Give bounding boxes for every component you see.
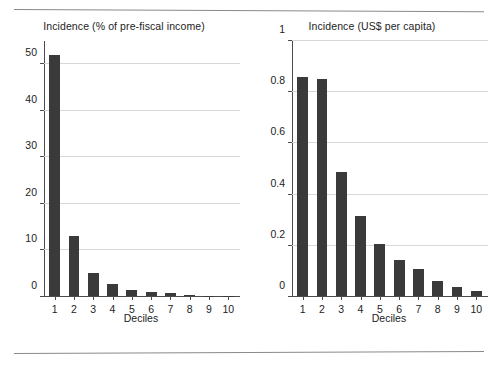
y-tick-label: 10 xyxy=(25,232,37,244)
page-rule-top xyxy=(14,9,484,12)
x-tick-mark xyxy=(380,296,381,300)
chart-title-usd: Incidence (US$ per capita) xyxy=(248,20,496,32)
chart-panels: Incidence (% of pre-fiscal income) 01020… xyxy=(0,14,496,344)
x-tick-mark xyxy=(341,296,342,300)
bar xyxy=(374,244,385,296)
x-tick-mark xyxy=(438,296,439,300)
bar-slot: 5 xyxy=(122,41,141,296)
bar-series-percent: 12345678910 xyxy=(45,41,238,296)
x-tick-mark xyxy=(457,296,458,300)
y-tick-mark xyxy=(40,249,44,250)
bar xyxy=(107,284,118,296)
bar xyxy=(297,77,308,296)
page-rule-bottom xyxy=(14,351,484,354)
y-tick-mark xyxy=(40,296,44,297)
x-axis-label-usd: Deciles xyxy=(292,312,486,324)
bar xyxy=(336,172,347,296)
y-tick-label: 0.2 xyxy=(270,228,285,240)
x-tick-mark xyxy=(55,296,56,300)
y-tick-mark xyxy=(40,203,44,204)
bar-slot: 10 xyxy=(219,41,238,296)
y-tick-label: 0 xyxy=(279,279,285,291)
bar xyxy=(452,287,463,296)
bar xyxy=(355,216,366,296)
bar xyxy=(432,281,443,296)
y-tick-mark xyxy=(288,194,292,195)
bar-slot: 6 xyxy=(141,41,160,296)
x-tick-mark xyxy=(476,296,477,300)
x-tick-mark xyxy=(132,296,133,300)
x-tick-mark xyxy=(170,296,171,300)
y-tick-label: 50 xyxy=(25,46,37,58)
y-tick-mark xyxy=(40,156,44,157)
plot-area-usd: 00.20.40.60.81 12345678910 xyxy=(292,41,486,297)
chart-panel-usd: Incidence (US$ per capita) 00.20.40.60.8… xyxy=(248,14,496,344)
y-tick-mark xyxy=(288,245,292,246)
bar-slot: 10 xyxy=(467,41,486,296)
bar-slot: 8 xyxy=(428,41,447,296)
bar-slot: 4 xyxy=(351,41,370,296)
x-tick-mark xyxy=(361,296,362,300)
bar xyxy=(88,273,99,296)
x-axis-label-percent: Deciles xyxy=(44,312,238,324)
x-tick-mark xyxy=(228,296,229,300)
x-tick-mark xyxy=(209,296,210,300)
y-tick-label: 0.8 xyxy=(270,74,285,86)
bar xyxy=(413,269,424,296)
bar-slot: 6 xyxy=(389,41,408,296)
bar-slot: 9 xyxy=(199,41,218,296)
y-tick-mark xyxy=(40,110,44,111)
bar-slot: 8 xyxy=(180,41,199,296)
bar-slot: 7 xyxy=(409,41,428,296)
bar xyxy=(69,236,80,296)
chart-title-percent: Incidence (% of pre-fiscal income) xyxy=(0,20,248,32)
x-tick-mark xyxy=(113,296,114,300)
y-tick-label: 0.4 xyxy=(270,177,285,189)
x-tick-mark xyxy=(322,296,323,300)
y-tick-label: 40 xyxy=(25,93,37,105)
bar-slot: 3 xyxy=(84,41,103,296)
bar xyxy=(49,55,60,296)
x-tick-mark xyxy=(399,296,400,300)
bar-slot: 2 xyxy=(312,41,331,296)
bar-slot: 1 xyxy=(293,41,312,296)
chart-panel-percent: Incidence (% of pre-fiscal income) 01020… xyxy=(0,14,248,344)
x-tick-mark xyxy=(190,296,191,300)
bar-slot: 2 xyxy=(64,41,83,296)
x-tick-mark xyxy=(418,296,419,300)
y-tick-label: 20 xyxy=(25,186,37,198)
bar-slot: 3 xyxy=(332,41,351,296)
bar-slot: 7 xyxy=(161,41,180,296)
y-tick-mark xyxy=(40,63,44,64)
x-tick-mark xyxy=(151,296,152,300)
y-tick-mark xyxy=(288,40,292,41)
x-tick-mark xyxy=(74,296,75,300)
y-tick-mark xyxy=(288,142,292,143)
bar-slot: 9 xyxy=(447,41,466,296)
y-tick-mark xyxy=(288,296,292,297)
y-tick-label: 0 xyxy=(31,279,37,291)
x-tick-mark xyxy=(93,296,94,300)
y-tick-label: 30 xyxy=(25,139,37,151)
plot-area-percent: 01020304050 12345678910 xyxy=(44,41,238,297)
bar xyxy=(394,260,405,296)
x-tick-mark xyxy=(303,296,304,300)
bar-slot: 1 xyxy=(45,41,64,296)
bar-slot: 5 xyxy=(370,41,389,296)
bar xyxy=(317,79,328,296)
bar-series-usd: 12345678910 xyxy=(293,41,486,296)
bar-slot: 4 xyxy=(103,41,122,296)
y-tick-label: 1 xyxy=(279,23,285,35)
y-tick-label: 0.6 xyxy=(270,125,285,137)
y-tick-mark xyxy=(288,91,292,92)
